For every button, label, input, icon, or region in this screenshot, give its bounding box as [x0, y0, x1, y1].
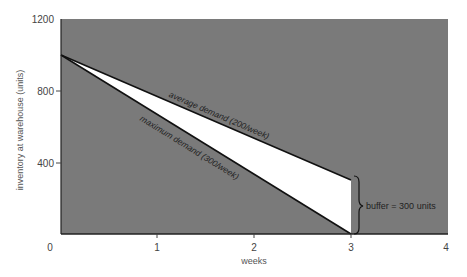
x-tick-label-3: 3: [348, 242, 354, 253]
buffer-annotation: buffer = 300 units: [366, 201, 436, 211]
inventory-chart: 1200 800 400 0 1 2 3 4 weeks inventory a…: [0, 0, 467, 277]
x-axis-label: weeks: [240, 256, 267, 266]
x-tick-label-4: 4: [443, 242, 449, 253]
y-tick-label-1200: 1200: [32, 14, 55, 25]
y-tick-label-800: 800: [37, 86, 54, 97]
x-tick-label-0: 0: [47, 242, 53, 253]
x-tick-label-2: 2: [251, 242, 257, 253]
y-tick-label-400: 400: [37, 158, 54, 169]
x-tick-label-1: 1: [154, 242, 160, 253]
y-axis-label: inventory at warehouse (units): [15, 70, 25, 191]
